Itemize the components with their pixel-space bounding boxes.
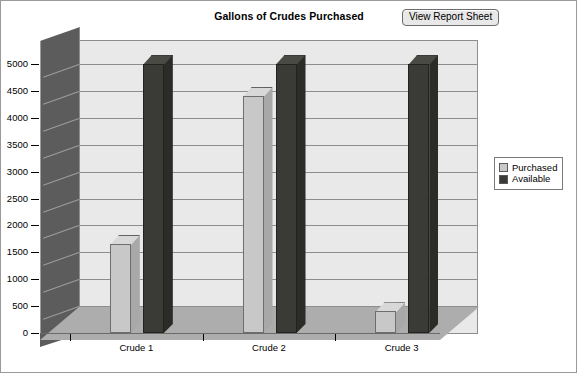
x-axis-label: Crude 1: [96, 342, 176, 353]
y-axis-label: 3000: [0, 167, 28, 177]
y-axis-tick: [31, 279, 39, 280]
bar-front-face: [110, 244, 131, 333]
x-axis-tick: [335, 334, 336, 341]
y-axis-tick: [31, 333, 39, 334]
bar-front-face: [408, 64, 429, 333]
x-axis-tick: [70, 334, 71, 341]
y-axis-label: 4000: [0, 113, 28, 123]
x-axis-label: Crude 3: [362, 342, 442, 353]
bar-purchased-crude-3: [375, 302, 405, 333]
legend-swatch-purchased: [499, 163, 508, 172]
bar-purchased-crude-1: [110, 235, 140, 333]
y-axis-label: 0: [0, 328, 28, 338]
legend-item-available: Available: [499, 174, 557, 184]
x-axis-label: Crude 2: [229, 342, 309, 353]
bar-front-face: [243, 96, 264, 333]
y-axis-tick: [31, 252, 39, 253]
y-axis-label: 500: [0, 301, 28, 311]
y-axis-tick: [31, 306, 39, 307]
y-axis-label: 2000: [0, 220, 28, 230]
y-axis-label: 4500: [0, 86, 28, 96]
bar-front-face: [143, 64, 164, 333]
y-axis-label: 5000: [0, 59, 28, 69]
legend-label-purchased: Purchased: [512, 163, 557, 173]
chart-legend: Purchased Available: [494, 157, 563, 190]
y-axis-tick: [31, 172, 39, 173]
bar-front-face: [276, 64, 297, 333]
bar-available-crude-1: [143, 55, 173, 333]
bar-available-crude-2: [276, 55, 306, 333]
legend-swatch-available: [499, 175, 508, 184]
legend-item-purchased: Purchased: [499, 163, 557, 173]
legend-label-available: Available: [512, 174, 550, 184]
y-axis-tick: [31, 199, 39, 200]
bar-side-face: [264, 87, 273, 333]
chart-plot-area: 5000450040003500300025002000150010005000…: [0, 0, 578, 374]
x-axis-line: [40, 333, 440, 334]
y-axis-tick: [31, 91, 39, 92]
y-axis-label: 1500: [0, 247, 28, 257]
bar-side-face: [429, 55, 438, 333]
bar-side-face: [131, 235, 140, 333]
y-axis-label: 3500: [0, 140, 28, 150]
bar-side-face: [297, 55, 306, 333]
bar-purchased-crude-2: [243, 87, 273, 333]
y-axis-tick: [31, 64, 39, 65]
y-axis-tick: [31, 118, 39, 119]
y-axis-tick: [31, 225, 39, 226]
y-axis-tick: [31, 145, 39, 146]
bar-side-face: [164, 55, 173, 333]
y-axis-label: 1000: [0, 274, 28, 284]
bar-front-face: [375, 311, 396, 333]
x-axis-tick: [203, 334, 204, 341]
y-axis-label: 2500: [0, 194, 28, 204]
y-axis-line: [40, 41, 41, 334]
bar-available-crude-3: [408, 55, 438, 333]
